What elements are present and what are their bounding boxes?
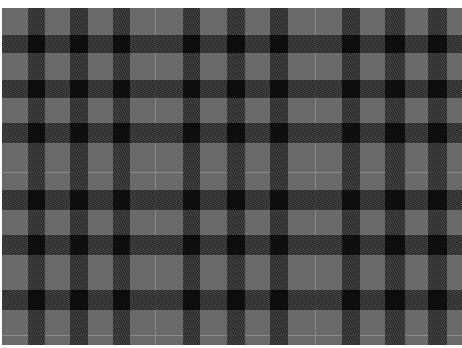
band-intersection [183,290,200,310]
band-intersection [183,80,200,98]
band-intersection [385,123,405,143]
band-intersection [227,235,245,255]
band-intersection [227,123,245,143]
band-intersection [385,235,405,255]
band-intersection [227,35,245,53]
band-intersection [385,290,405,310]
band-intersection [70,35,88,53]
band-intersection [428,80,447,98]
band-intersection [227,290,245,310]
band-intersection [342,123,360,143]
band-intersection [342,235,360,255]
band-intersection [28,80,45,98]
band-intersection [113,290,130,310]
band-intersection [28,123,45,143]
band-intersection [428,35,447,53]
band-intersection [270,80,288,98]
band-intersection [342,80,360,98]
band-intersection [428,123,447,143]
band-intersection [183,123,200,143]
band-intersection [428,190,447,210]
band-intersection [113,235,130,255]
band-intersection [385,80,405,98]
band-intersection [70,123,88,143]
band-intersection [270,123,288,143]
band-intersection [385,190,405,210]
band-intersection [428,235,447,255]
band-intersection [183,190,200,210]
band-intersection [70,235,88,255]
band-intersection [227,80,245,98]
band-intersection [113,80,130,98]
band-intersection [113,123,130,143]
band-intersection [270,235,288,255]
band-intersection [183,235,200,255]
band-intersection [28,190,45,210]
band-intersection [183,35,200,53]
band-intersection [70,290,88,310]
band-intersection [28,290,45,310]
band-intersection [113,35,130,53]
band-intersection [270,290,288,310]
band-intersection [428,290,447,310]
band-intersection [70,190,88,210]
band-intersection [270,35,288,53]
band-intersection [342,35,360,53]
band-intersection [385,35,405,53]
band-intersection [70,80,88,98]
band-intersection [270,190,288,210]
band-intersection [113,190,130,210]
band-intersection [28,35,45,53]
band-intersection [342,190,360,210]
band-intersection [28,235,45,255]
band-intersection [342,290,360,310]
band-intersection [227,190,245,210]
tartan-pattern [2,8,462,345]
